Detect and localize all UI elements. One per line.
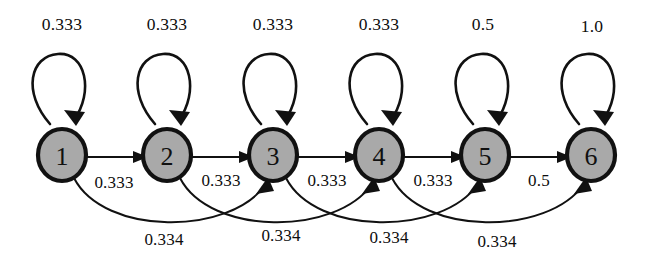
self-loop-weight-6: 1.0 xyxy=(581,16,603,37)
node-3[interactable]: 3 xyxy=(249,129,297,181)
forward-edge-weight-1-2: 0.333 xyxy=(94,173,133,193)
forward-edge-3-4 xyxy=(297,151,360,163)
node-2-label: 2 xyxy=(161,142,174,171)
skip-arc-weight-4-6: 0.334 xyxy=(477,232,516,252)
arrowhead-loop-4 xyxy=(381,110,402,126)
node-4[interactable]: 4 xyxy=(355,129,403,181)
self-loop-weight-4: 0.333 xyxy=(359,14,399,35)
self-loop-6 xyxy=(562,54,615,126)
forward-edge-2-3 xyxy=(191,151,254,163)
self-loop-group xyxy=(33,54,615,126)
node-2[interactable]: 2 xyxy=(143,129,191,181)
arrowhead-loop-6 xyxy=(593,110,614,126)
node-1[interactable]: 1 xyxy=(38,129,86,181)
forward-edge-weight-3-4: 0.333 xyxy=(307,171,346,191)
self-loop-5 xyxy=(456,54,509,126)
node-5[interactable]: 5 xyxy=(461,129,509,181)
node-6[interactable]: 6 xyxy=(567,129,615,181)
forward-edge-weight-2-3: 0.333 xyxy=(201,171,240,191)
self-loop-weight-5: 0.5 xyxy=(472,14,494,35)
skip-arc-weight-1-3: 0.334 xyxy=(144,230,183,250)
node-4-label: 4 xyxy=(373,142,386,171)
self-loop-weight-2: 0.333 xyxy=(147,14,187,35)
self-loop-1 xyxy=(33,54,86,126)
node-3-label: 3 xyxy=(267,142,280,171)
arrowhead-loop-2 xyxy=(169,110,190,126)
forward-edge-5-6 xyxy=(509,151,572,163)
node-1-label: 1 xyxy=(56,142,69,171)
self-loop-3 xyxy=(244,54,297,126)
self-loop-4 xyxy=(350,54,403,126)
arrowhead-loop-3 xyxy=(275,110,296,126)
diagram-canvas: 1 2 3 4 5 6 xyxy=(0,0,653,264)
skip-arc-weight-3-5: 0.334 xyxy=(369,228,408,248)
forward-edge-4-5 xyxy=(403,151,466,163)
arrowhead-loop-5 xyxy=(487,110,508,126)
self-loop-weight-3: 0.333 xyxy=(253,14,293,35)
forward-edge-weight-5-6: 0.5 xyxy=(528,171,550,191)
node-5-label: 5 xyxy=(479,142,492,171)
self-loop-2 xyxy=(138,54,191,126)
node-6-label: 6 xyxy=(585,142,598,171)
skip-arc-weight-2-4: 0.334 xyxy=(261,226,300,246)
forward-edge-weight-4-5: 0.333 xyxy=(413,171,452,191)
self-loop-weight-1: 0.333 xyxy=(42,14,82,35)
state-transition-diagram: 1 2 3 4 5 6 0.333 0.3 xyxy=(0,0,653,264)
forward-edge-1-2 xyxy=(85,151,148,163)
arrowhead-loop-1 xyxy=(64,110,85,126)
